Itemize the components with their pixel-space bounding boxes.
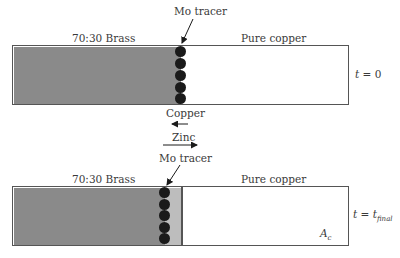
arrows-overlay [0, 0, 400, 258]
bottom-tracer-pointer-arrow [167, 165, 180, 185]
top-tracer-pointer-arrow [182, 19, 193, 43]
